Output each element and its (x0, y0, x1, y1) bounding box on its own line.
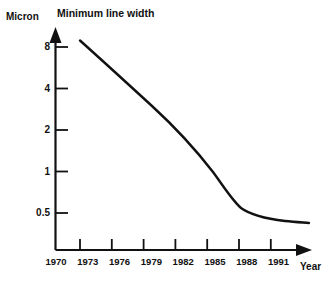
x-tick-marks (80, 239, 271, 250)
x-axis-arrow (296, 244, 312, 256)
y-tick-label-0-5: 0.5 (22, 208, 50, 218)
y-tick-label-2: 2 (30, 125, 50, 135)
chart-container: 8 4 2 1 0.5 1970 1973 1976 1979 1982 198… (0, 0, 332, 281)
chart-title: Minimum line width (57, 8, 154, 19)
y-tick-marks (56, 47, 69, 213)
y-axis-arrow (50, 27, 62, 43)
y-tick-label-8: 8 (30, 42, 50, 52)
x-tick-label-1991: 1991 (259, 257, 299, 267)
x-axis-title: Year (300, 262, 321, 272)
data-line-minimum-line-width (80, 41, 309, 224)
y-tick-label-1: 1 (30, 167, 50, 177)
y-axis-title: Micron (6, 12, 39, 22)
y-tick-label-4: 4 (30, 84, 50, 94)
